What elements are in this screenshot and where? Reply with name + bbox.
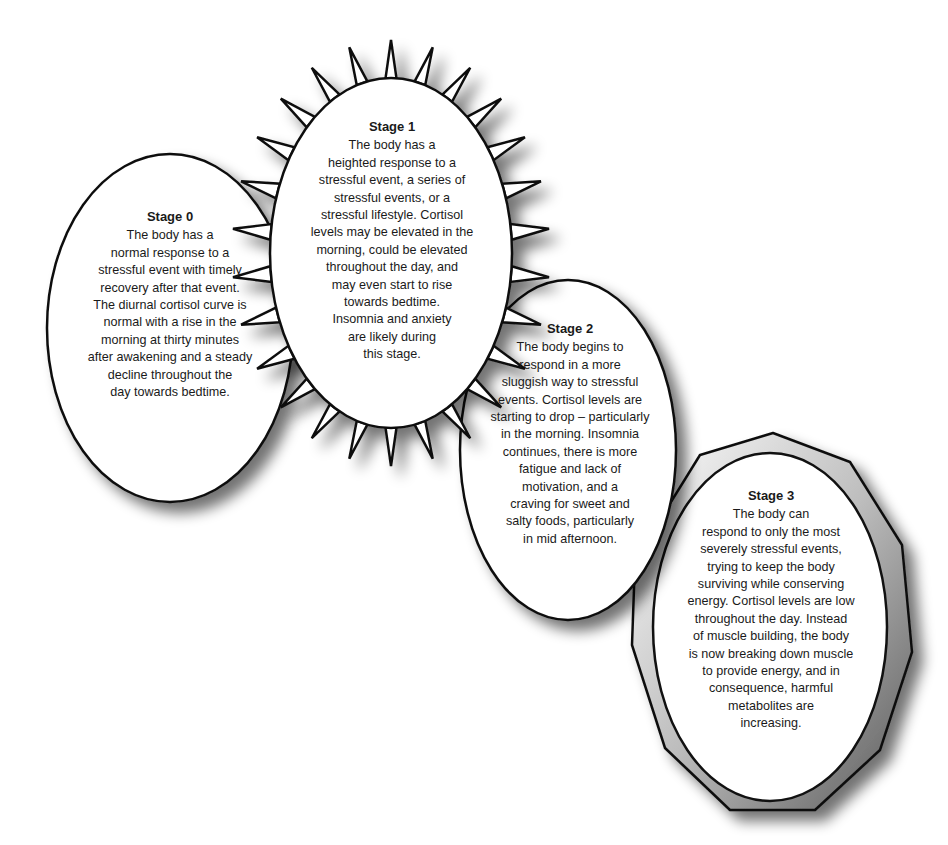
stage-0-text: Stage 0 The body has a normal response t… bbox=[57, 208, 283, 401]
stage-1-title: Stage 1 bbox=[276, 118, 508, 135]
stage-3-text: Stage 3 The body can respond to only the… bbox=[660, 487, 882, 733]
stage-2-title: Stage 2 bbox=[470, 320, 670, 337]
stage-2-description: The body begins to respond in a more slu… bbox=[470, 339, 670, 548]
stage-0-title: Stage 0 bbox=[57, 208, 283, 225]
stage-3-description: The body can respond to only the most se… bbox=[660, 506, 882, 732]
stage-3-title: Stage 3 bbox=[660, 487, 882, 504]
stage-0-description: The body has a normal response to a stre… bbox=[57, 227, 283, 401]
stage-2-text: Stage 2 The body begins to respond in a … bbox=[470, 320, 670, 548]
